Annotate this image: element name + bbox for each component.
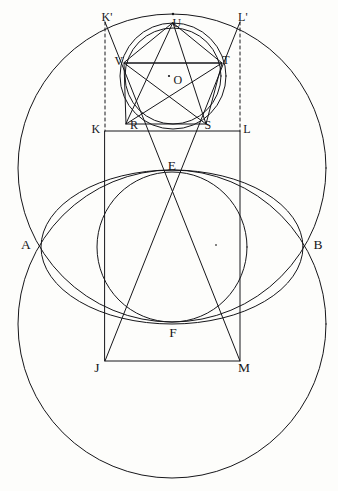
center-dot (215, 244, 217, 246)
point-O-dot (168, 75, 170, 77)
point-label-e: E (168, 159, 176, 173)
point-label-v: V (115, 55, 124, 67)
point-label-o: O (174, 74, 183, 86)
point-label-t: T (222, 54, 230, 66)
point-label-l-prime: L' (238, 11, 248, 23)
point-label-s: S (205, 119, 212, 131)
point-label-a: A (21, 238, 31, 252)
middle-circle (97, 172, 247, 322)
point-label-r: R (130, 119, 138, 131)
geometry-svg (0, 0, 338, 491)
point-label-k: K (92, 123, 101, 135)
point-label-f: F (169, 326, 177, 340)
point-label-b: B (313, 238, 322, 252)
point-label-j: J (94, 361, 99, 375)
point-label-l: L (243, 123, 251, 135)
point-label-m: M (238, 361, 250, 375)
figure-canvas: K'UL'VTOKRSLEABFJM (0, 0, 338, 491)
point-label-k-prime: K' (101, 11, 112, 23)
point-U-dot (172, 13, 174, 15)
point-label-u: U (173, 17, 182, 29)
